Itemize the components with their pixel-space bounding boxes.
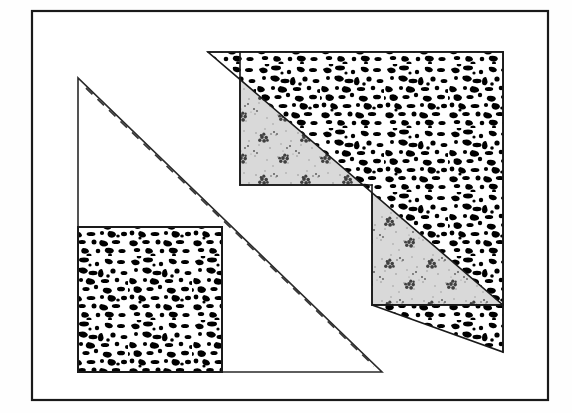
dissection-figure (0, 0, 572, 413)
speckled-square (78, 227, 222, 372)
figure-page (0, 0, 572, 413)
